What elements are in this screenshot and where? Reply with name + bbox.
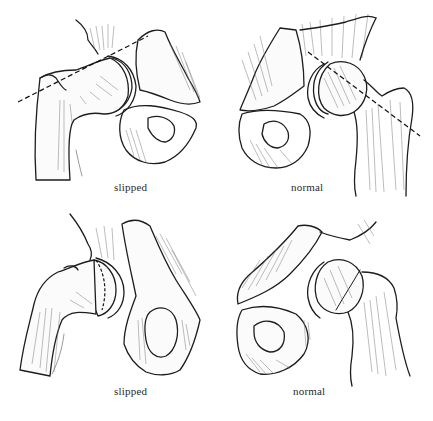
caption-top-right: normal [291,181,323,193]
panel-bottom-left-slipped: slipped [0,200,220,421]
hip-illustration-normal-ap [220,0,433,200]
hip-illustration-slipped-frog-leg [0,200,220,421]
caption-top-left: slipped [114,181,147,193]
panel-top-left-slipped: slipped [0,0,220,200]
caption-bottom-left: slipped [114,385,147,397]
hip-illustration-slipped-ap [0,0,220,200]
caption-bottom-right: normal [293,385,325,397]
panel-bottom-right-normal: normal [220,200,433,421]
hip-illustration-normal-frog-leg [220,200,433,421]
panel-top-right-normal: normal [220,0,433,200]
